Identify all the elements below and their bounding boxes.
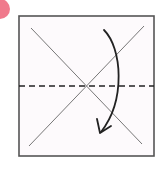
- fold-diagram: [0, 0, 163, 170]
